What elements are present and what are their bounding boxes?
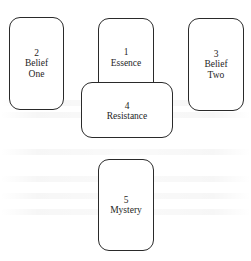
- card-label-line: Resistance: [107, 111, 148, 122]
- card-belief-two: 3 Belief Two: [188, 18, 244, 111]
- card-label-line: Mystery: [110, 205, 142, 216]
- card-number: 5: [124, 195, 129, 206]
- card-number: 4: [125, 101, 130, 112]
- card-number: 2: [34, 48, 39, 59]
- card-mystery: 5 Mystery: [98, 159, 154, 251]
- card-number: 1: [124, 47, 129, 58]
- card-label-line: Belief: [204, 59, 227, 70]
- card-belief-one: 2 Belief One: [9, 17, 64, 110]
- card-number: 3: [214, 49, 219, 60]
- background-text-line: [0, 149, 251, 155]
- card-label-line: Two: [208, 70, 225, 81]
- card-label-line: Belief: [25, 58, 48, 69]
- card-resistance: 4 Resistance: [81, 82, 173, 138]
- card-label-line: One: [29, 69, 45, 80]
- card-label-line: Essence: [111, 58, 142, 69]
